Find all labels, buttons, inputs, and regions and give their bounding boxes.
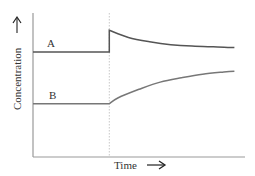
chart: A B Time Concentration — [0, 0, 255, 176]
series-line-a — [33, 30, 234, 52]
y-axis-title: Concentration — [11, 17, 23, 110]
right-arrow-icon — [147, 161, 165, 169]
series-label-b: B — [49, 89, 56, 101]
series-label-a: A — [47, 37, 55, 49]
x-axis-title: Time — [114, 159, 165, 171]
series-layer — [33, 30, 234, 103]
series-line-b — [33, 71, 234, 103]
up-arrow-icon — [13, 17, 21, 33]
y-axis-label: Concentration — [11, 47, 23, 110]
x-axis-label: Time — [114, 159, 137, 171]
